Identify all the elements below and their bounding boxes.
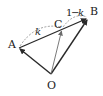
label-ratio-k2: k <box>78 7 84 18</box>
vector-oc <box>51 31 62 74</box>
label-ratio-k: k <box>35 26 41 37</box>
segment-ab <box>19 19 86 48</box>
vector-oa <box>20 49 51 74</box>
label-point-b: B <box>90 5 98 18</box>
label-point-a: A <box>7 38 17 51</box>
label-point-c: C <box>54 18 62 31</box>
vector-diagram: A B C O k 1 − k <box>0 0 103 96</box>
label-point-o: O <box>47 79 56 92</box>
